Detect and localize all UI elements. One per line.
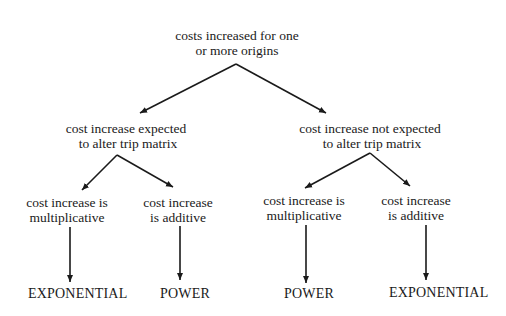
result-power-left: POWER (160, 286, 210, 302)
left-mult-line-2: multiplicative (22, 210, 112, 225)
branch-node-not-expected: cost increase not expected to alter trip… (290, 121, 450, 151)
left-mult-node: cost increase is multiplicative (22, 195, 112, 225)
branch-left-line-2: to alter trip matrix (56, 136, 196, 151)
left-add-node: cost increase is additive (140, 195, 216, 225)
root-line-2: or more origins (166, 43, 308, 58)
right-mult-line-2: multiplicative (259, 208, 349, 223)
branch-node-expected: cost increase expected to alter trip mat… (56, 121, 196, 151)
left-add-line-2: is additive (140, 210, 216, 225)
branch-right-line-2: to alter trip matrix (290, 136, 450, 151)
right-add-line-2: is additive (378, 208, 454, 223)
arrow-left-to-mult (82, 155, 117, 190)
root-node: costs increased for one or more origins (166, 28, 308, 58)
arrow-root-to-left (140, 64, 236, 113)
result-power-right: POWER (284, 286, 334, 302)
left-add-line-1: cost increase (140, 195, 216, 210)
right-mult-line-1: cost increase is (259, 193, 349, 208)
arrow-right-to-add (370, 153, 410, 186)
right-mult-node: cost increase is multiplicative (259, 193, 349, 223)
result-exponential-right: EXPONENTIAL (389, 285, 488, 301)
right-add-line-1: cost increase (378, 193, 454, 208)
result-exponential-left: EXPONENTIAL (28, 286, 127, 302)
left-mult-line-1: cost increase is (22, 195, 112, 210)
arrow-root-to-right (236, 64, 326, 113)
arrow-left-to-add (117, 155, 173, 187)
branch-right-line-1: cost increase not expected (290, 121, 450, 136)
arrow-right-to-mult (305, 153, 370, 188)
right-add-node: cost increase is additive (378, 193, 454, 223)
branch-left-line-1: cost increase expected (56, 121, 196, 136)
root-line-1: costs increased for one (166, 28, 308, 43)
